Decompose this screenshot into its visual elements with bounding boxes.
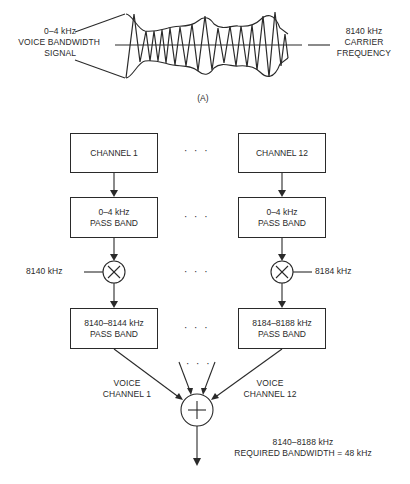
- ellipsis-row-3: · · ·: [184, 266, 210, 277]
- carrier-12-label: 8184 kHz: [315, 266, 371, 277]
- output-bandwidth-label: 8140–8188 kHz REQUIRED BANDWIDTH = 48 kH…: [218, 437, 388, 459]
- voice-signal-label: 0–4 kHz VOICE BANDWIDTH SIGNAL: [8, 26, 100, 59]
- channel-12-box: CHANNEL 12: [238, 133, 326, 173]
- carrier-frequency-label: 8140 kHz CARRIER FREQUENCY: [332, 26, 396, 59]
- channel-1-box: CHANNEL 1: [70, 133, 158, 173]
- signal-leader-bottom: [75, 60, 125, 78]
- ellipsis-row-1: · · ·: [184, 145, 210, 156]
- carrier-1-label: 8140 kHz: [26, 266, 82, 277]
- diagram-lines: [0, 0, 410, 484]
- voice-channel-12-label: VOICE CHANNEL 12: [230, 378, 310, 400]
- channel-12-output-box: 8184–8188 kHz PASS BAND: [238, 308, 326, 349]
- channel-1-output-box: 8140–8144 kHz PASS BAND: [70, 308, 158, 349]
- ellipsis-summer: · · ·: [186, 358, 212, 369]
- ellipsis-row-2: · · ·: [184, 211, 210, 222]
- panel-a-caption: (A): [188, 93, 218, 104]
- channel-1-passband-box: 0–4 kHz PASS BAND: [70, 197, 158, 238]
- channel-12-passband-box: 0–4 kHz PASS BAND: [238, 197, 326, 238]
- voice-channel-1-label: VOICE CHANNEL 1: [92, 378, 162, 400]
- ellipsis-row-4: · · ·: [184, 322, 210, 333]
